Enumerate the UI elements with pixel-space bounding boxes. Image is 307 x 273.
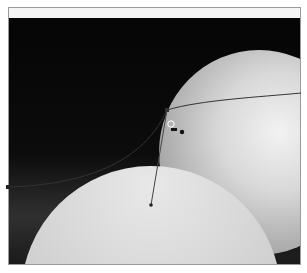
anchor-point-middle[interactable] bbox=[165, 108, 169, 112]
anchor-point-left[interactable] bbox=[6, 185, 10, 189]
pen-path-overlay[interactable] bbox=[0, 0, 307, 273]
pen-path-curve[interactable] bbox=[8, 93, 301, 187]
pen-tool-cursor-icon bbox=[168, 121, 177, 131]
cursor-dot-icon bbox=[180, 130, 184, 134]
direction-handle-point[interactable] bbox=[149, 203, 153, 207]
